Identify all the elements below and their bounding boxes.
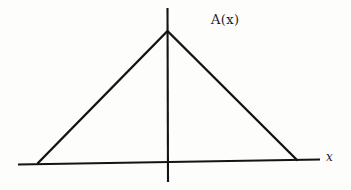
y-axis-line	[168, 8, 169, 182]
plot-svg	[0, 0, 351, 190]
figure-canvas: A(x) x	[0, 0, 351, 190]
function-label: A(x)	[211, 13, 239, 26]
x-axis-line	[18, 160, 320, 165]
x-axis-label: x	[326, 151, 333, 163]
